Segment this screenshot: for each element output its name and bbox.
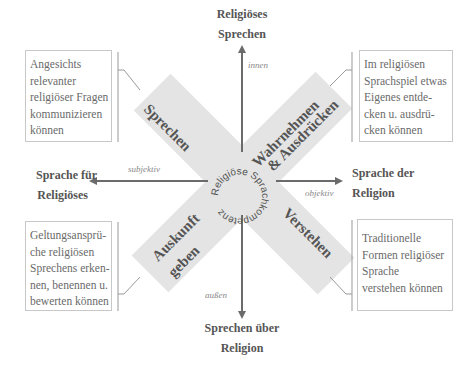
description-verstehen: Traditionelle Formen religiöser Sprache … (357, 219, 453, 311)
connector-auskunft (118, 277, 140, 294)
axis-left-label: Sprache für Religiöses (36, 165, 88, 205)
connector-sprechen (118, 70, 140, 90)
pole-objektiv: objektiv (305, 188, 334, 198)
pole-aussen: außen (205, 290, 227, 300)
connector-verstehen (330, 277, 352, 294)
description-wahrnehmen: Im religiösen Sprachspiel etwas Eigenes … (359, 50, 453, 142)
axis-top-label: Religiöses Sprechen (200, 4, 284, 44)
connector-wahrnehmen (330, 70, 352, 86)
description-auskunft: Geltungsansprü- che religiösen Sprechens… (25, 221, 112, 311)
axis-right-label: Sprache der Religion (352, 163, 452, 203)
description-sprechen: Angesichts relevanter religiöser Fragen … (25, 50, 112, 142)
axis-bottom-label: Sprechen über Religion (186, 318, 298, 358)
pole-subjektiv: subjektiv (128, 164, 160, 174)
pole-innen: innen (248, 60, 268, 70)
